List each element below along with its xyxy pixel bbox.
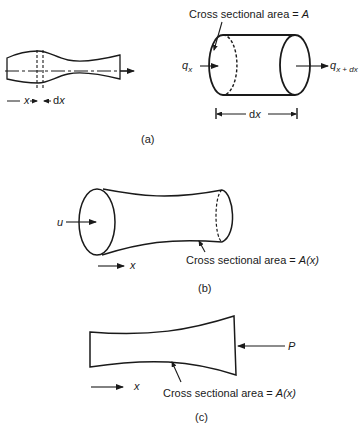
caption-c: (c)	[195, 411, 208, 423]
top-profile	[103, 189, 222, 196]
area-label: Cross sectional area = A(x)	[163, 387, 296, 399]
right-face-front	[222, 190, 233, 242]
right-face-back	[216, 190, 222, 242]
axis-label: x	[129, 259, 136, 271]
bar-outline	[90, 316, 236, 375]
length-label: dx	[249, 108, 261, 120]
panel-c: P x Cross sectional area = A(x)	[90, 316, 296, 399]
left-face-back	[223, 35, 237, 95]
area-label: Cross sectional area = A(x)	[186, 254, 319, 266]
label-x: x	[23, 94, 30, 106]
bottom-profile	[102, 241, 222, 255]
caption-b: (b)	[198, 282, 211, 294]
panel-a-element: Cross sectional area = A qx qx + dx dx	[182, 8, 359, 120]
caption-a: (a)	[141, 133, 154, 145]
pointer-arrow-icon	[172, 362, 181, 382]
flux-out-label: qx + dx	[330, 59, 359, 74]
bar-outline	[7, 51, 120, 83]
figure-canvas: x dx Cross sectional area = A qx qx + dx…	[0, 0, 361, 432]
area-label: Cross sectional area = A	[189, 8, 309, 20]
label-dx: dx	[53, 94, 65, 106]
pointer-arrow-icon	[199, 241, 205, 252]
load-label: P	[288, 340, 296, 352]
input-label: u	[57, 216, 63, 228]
axis-label: x	[133, 380, 140, 392]
flux-in-label: qx	[182, 59, 193, 74]
panel-b: u x Cross sectional area = A(x)	[57, 189, 319, 271]
right-face	[280, 35, 310, 95]
panel-a-bar: x dx	[5, 50, 134, 106]
